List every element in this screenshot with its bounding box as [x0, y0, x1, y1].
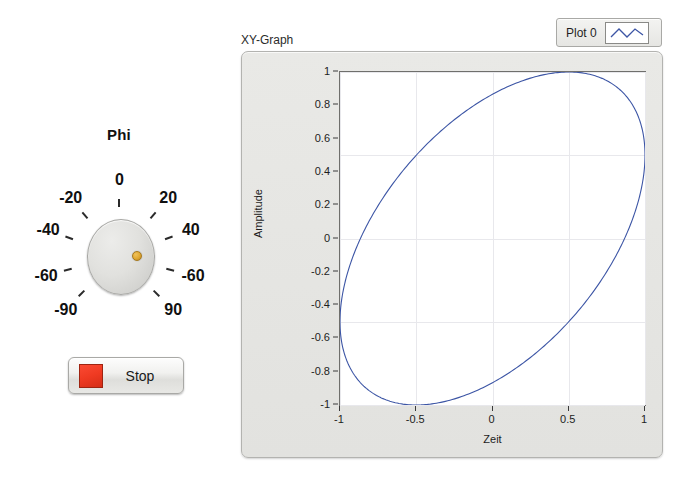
- knob-scale-label: -90: [54, 301, 77, 319]
- y-tick-label: 0: [324, 232, 330, 244]
- knob-tick: [166, 268, 174, 272]
- knob-body[interactable]: [87, 219, 155, 295]
- knob-scale-label: 90: [164, 301, 182, 319]
- x-tick-mark: [644, 406, 645, 411]
- x-tick-label: 0: [488, 413, 494, 425]
- knob-scale-label: -60: [181, 267, 204, 285]
- y-tick-label: -1: [320, 398, 330, 410]
- y-tick-mark: [333, 404, 338, 405]
- plot-curve-svg: [340, 72, 645, 405]
- y-tick-label: 0.6: [315, 132, 330, 144]
- y-tick-mark: [333, 104, 338, 105]
- knob-tick: [82, 212, 89, 219]
- series-plot-0-curve: [340, 72, 645, 405]
- y-tick-mark: [333, 270, 338, 271]
- x-tick-label: 0.5: [560, 413, 575, 425]
- y-tick-mark: [333, 71, 338, 72]
- y-tick-mark: [333, 137, 338, 138]
- y-tick-label: -0.2: [311, 265, 330, 277]
- x-tick-label: -1: [334, 413, 344, 425]
- plot-area[interactable]: [339, 71, 646, 406]
- plot-legend-line-icon[interactable]: [605, 22, 649, 44]
- phi-knob-dial[interactable]: -90-60-40-2002040-6090: [8, 148, 230, 341]
- y-tick-label: -0.8: [311, 365, 330, 377]
- xy-graph-container: Amplitude 10.80.60.40.20-0.2-0.4-0.6-0.8…: [241, 51, 663, 458]
- knob-scale-label: 0: [115, 171, 124, 189]
- y-tick-mark: [333, 204, 338, 205]
- gridline-horizontal: [340, 405, 645, 406]
- zigzag-line-icon: [609, 26, 645, 40]
- x-tick-mark: [492, 406, 493, 411]
- y-tick-label: 0.8: [315, 98, 330, 110]
- knob-scale-label: 40: [182, 221, 200, 239]
- knob-pointer-dot: [132, 251, 142, 261]
- y-tick-mark: [333, 337, 338, 338]
- knob-scale-label: -40: [37, 221, 60, 239]
- plot-legend-label: Plot 0: [566, 26, 597, 40]
- plot-legend[interactable]: Plot 0: [556, 18, 662, 47]
- y-axis-title: Amplitude: [252, 189, 264, 238]
- graph-title: XY-Graph: [241, 33, 293, 47]
- stop-led-indicator: [79, 364, 103, 388]
- phi-knob-panel: Phi -90-60-40-2002040-6090: [8, 126, 230, 341]
- knob-scale-label: -20: [59, 189, 82, 207]
- x-axis-title: Zeit: [339, 433, 646, 445]
- x-tick-mark: [415, 406, 416, 411]
- knob-tick: [118, 199, 120, 207]
- y-tick-mark: [333, 304, 338, 305]
- knob-scale-label: -60: [35, 267, 58, 285]
- x-tick-label: -0.5: [406, 413, 425, 425]
- y-tick-label: -0.4: [311, 298, 330, 310]
- knob-tick: [78, 290, 85, 297]
- x-tick-mark: [339, 406, 340, 411]
- x-tick-mark: [568, 406, 569, 411]
- stop-button[interactable]: Stop: [68, 357, 184, 394]
- phi-knob-title: Phi: [8, 126, 230, 143]
- y-tick-mark: [333, 370, 338, 371]
- gridline-vertical: [645, 72, 646, 405]
- knob-tick: [65, 236, 73, 241]
- knob-tick: [165, 236, 173, 241]
- stop-button-label: Stop: [103, 368, 183, 384]
- knob-tick: [150, 212, 157, 219]
- knob-tick: [153, 290, 160, 297]
- y-tick-label: -0.6: [311, 331, 330, 343]
- y-tick-label: 0.4: [315, 165, 330, 177]
- y-tick-mark: [333, 237, 338, 238]
- y-tick-label: 1: [324, 65, 330, 77]
- y-tick-mark: [333, 170, 338, 171]
- x-tick-label: 1: [641, 413, 647, 425]
- knob-scale-label: 20: [159, 189, 177, 207]
- knob-tick: [64, 268, 72, 272]
- y-tick-label: 0.2: [315, 198, 330, 210]
